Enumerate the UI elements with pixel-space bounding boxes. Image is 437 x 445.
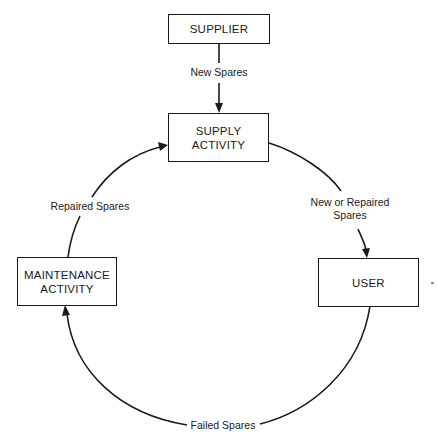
edge-label-text: Failed Spares bbox=[191, 419, 256, 431]
node-label: SUPPLY bbox=[196, 124, 242, 138]
edge-label-text: Repaired Spares bbox=[51, 200, 130, 212]
edge-label-new-or-repaired-spares: New or Repaired Spares bbox=[305, 196, 395, 222]
node-label: SUPPLIER bbox=[190, 22, 248, 36]
arrowhead-icon bbox=[62, 305, 70, 316]
node-label: MAINTENANCE bbox=[24, 268, 110, 282]
edge-label-failed-spares: Failed Spares bbox=[184, 419, 262, 432]
edge-label-text: New or Repaired bbox=[305, 196, 395, 209]
edge-failed-spares bbox=[62, 305, 370, 425]
node-user: USER bbox=[318, 258, 419, 307]
node-supplier: SUPPLIER bbox=[168, 14, 270, 44]
arrowhead-icon bbox=[215, 103, 223, 113]
spares-flow-diagram: SUPPLIER SUPPLY ACTIVITY USER MAINTENANC… bbox=[0, 0, 437, 445]
edge-label-text: New Spares bbox=[190, 66, 247, 78]
edge-label-new-spares: New Spares bbox=[179, 66, 259, 79]
arrowhead-icon bbox=[362, 248, 370, 258]
arrowhead-icon bbox=[158, 142, 168, 151]
edge-label-text: Spares bbox=[305, 209, 395, 222]
node-maintenance-activity: MAINTENANCE ACTIVITY bbox=[17, 257, 117, 306]
node-label: ACTIVITY bbox=[192, 138, 245, 152]
node-label: ACTIVITY bbox=[40, 282, 93, 296]
node-supply-activity: SUPPLY ACTIVITY bbox=[168, 113, 269, 162]
edge-label-repaired-spares: Repaired Spares bbox=[44, 200, 136, 213]
node-label: USER bbox=[352, 276, 385, 290]
